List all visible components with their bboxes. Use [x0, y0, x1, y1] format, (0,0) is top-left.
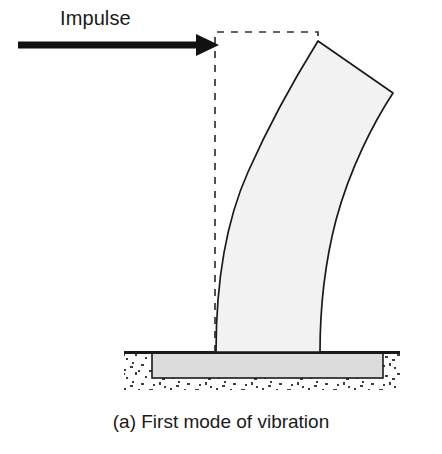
deformed-column-shape — [216, 41, 393, 352]
figure-caption: (a) First mode of vibration — [0, 410, 442, 434]
figure-first-mode-of-vibration: Impulse (a) First mode of vibration — [0, 0, 442, 454]
impulse-label: Impulse — [60, 7, 131, 29]
foundation-block — [152, 353, 383, 378]
impulse-arrow-shaft — [18, 42, 199, 49]
vibration-mode-diagram — [0, 0, 442, 454]
impulse-arrow — [18, 34, 219, 56]
